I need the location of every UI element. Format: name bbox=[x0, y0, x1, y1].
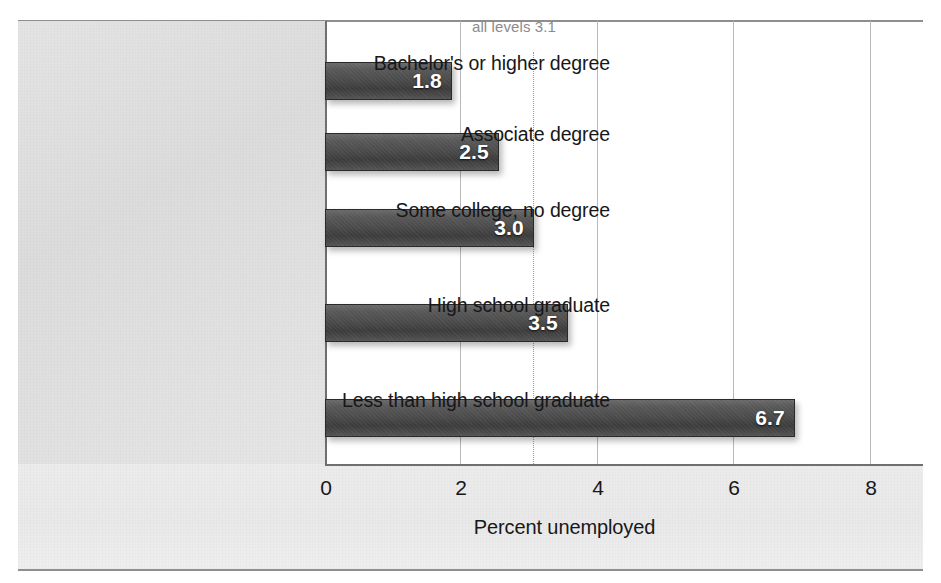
category-label-bachelors-or-higher: Bachelor's or higher degree bbox=[374, 52, 610, 75]
x-tick-label-4: 4 bbox=[592, 476, 604, 500]
gridline-8 bbox=[870, 21, 871, 464]
x-tick-label-0: 0 bbox=[320, 476, 332, 500]
x-axis-line bbox=[325, 464, 923, 466]
bar-value-label: 3.5 bbox=[528, 311, 567, 335]
x-tick-label-2: 2 bbox=[455, 476, 467, 500]
bottom-rule bbox=[18, 569, 923, 571]
x-axis-title-text: Percent unemployed bbox=[474, 516, 656, 538]
bar-value-label: 1.8 bbox=[412, 69, 451, 93]
all-levels-annotation-label: all levels 3.1 bbox=[472, 18, 556, 35]
category-label-less-than-high-school-graduate: Less than high school graduate bbox=[342, 389, 610, 412]
bar-value-label: 2.5 bbox=[459, 140, 498, 164]
bar-value-label: 6.7 bbox=[755, 406, 794, 430]
x-tick-label-8: 8 bbox=[865, 476, 877, 500]
chart-figure: 1.8 2.5 3.0 3.5 6.7 all levels 3.1 Bache… bbox=[0, 0, 941, 583]
x-axis-title: Percent unemployed bbox=[0, 516, 941, 539]
x-tick-label-6: 6 bbox=[728, 476, 740, 500]
category-label-high-school-graduate: High school graduate bbox=[428, 294, 610, 317]
gridline-6 bbox=[733, 21, 734, 464]
bar-value-label: 3.0 bbox=[494, 216, 533, 240]
category-label-panel bbox=[18, 21, 325, 464]
